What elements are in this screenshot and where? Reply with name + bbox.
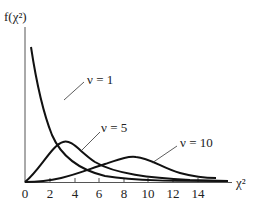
leader-nu-5 bbox=[81, 132, 100, 151]
curve-nu-1 bbox=[31, 47, 228, 181]
y-axis-label: f(χ²) bbox=[4, 9, 27, 24]
svg-text:12: 12 bbox=[167, 186, 180, 201]
svg-text:6: 6 bbox=[96, 186, 103, 201]
leader-nu-10 bbox=[152, 146, 177, 163]
svg-text:2: 2 bbox=[47, 186, 54, 201]
svg-text:0: 0 bbox=[22, 186, 29, 201]
label-nu-1: ν = 1 bbox=[87, 72, 113, 87]
svg-text:8: 8 bbox=[121, 186, 128, 201]
label-nu-10: ν = 10 bbox=[180, 135, 213, 150]
label-nu-5: ν = 5 bbox=[101, 120, 127, 135]
x-tick-labels: 0 2 4 6 8 10 12 14 bbox=[22, 186, 205, 201]
svg-text:4: 4 bbox=[72, 186, 79, 201]
svg-text:10: 10 bbox=[142, 186, 155, 201]
svg-text:14: 14 bbox=[192, 186, 206, 201]
x-axis-label: χ² bbox=[235, 175, 246, 190]
chi-square-diagram: 0 2 4 6 8 10 12 14 f(χ²) χ² ν = 1 ν = 5 … bbox=[0, 0, 257, 207]
leader-nu-1 bbox=[64, 82, 84, 100]
